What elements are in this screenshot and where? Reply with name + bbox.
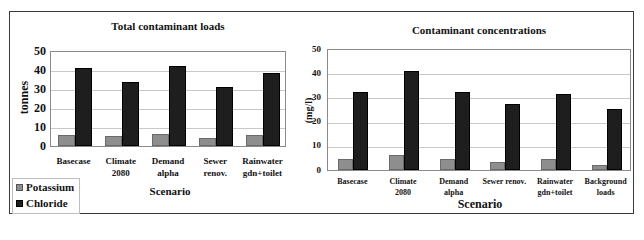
x-axis-label: Scenario — [440, 197, 520, 212]
bar-chloride — [169, 66, 186, 146]
bar-potassium — [199, 138, 216, 146]
bar-chloride — [75, 68, 92, 146]
y-tick-label: 50 — [297, 44, 321, 54]
y-tick-label: 10 — [297, 140, 321, 150]
bar-chloride — [556, 94, 571, 170]
chart-title: Contaminant concentrations — [327, 24, 631, 36]
y-tick-label: 0 — [22, 139, 46, 154]
bar-chloride — [122, 82, 139, 146]
y-tick-label: 20 — [22, 101, 46, 116]
chloride-swatch-icon — [16, 200, 23, 207]
legend-label: Potassium — [26, 181, 74, 193]
y-tick-label: 20 — [297, 116, 321, 126]
y-tick-label: 30 — [297, 92, 321, 102]
gridline — [328, 123, 630, 124]
y-tick-label: 10 — [22, 120, 46, 135]
y-tick-label: 0 — [297, 165, 321, 175]
plot-area — [327, 49, 631, 171]
bar-chloride — [505, 104, 520, 170]
legend-item-potassium: Potassium — [16, 181, 74, 193]
bar-potassium — [105, 136, 122, 146]
legend-label: Chloride — [26, 197, 68, 209]
y-tick-label: 40 — [22, 63, 46, 78]
chart-title: Total contaminant loads — [50, 20, 286, 32]
gridline — [328, 147, 630, 148]
bar-chloride — [263, 73, 280, 146]
bar-potassium — [338, 159, 353, 170]
bar-potassium — [152, 134, 169, 146]
bar-potassium — [389, 155, 404, 170]
y-tick-label: 40 — [297, 68, 321, 78]
x-tick-label: Background loads — [575, 177, 637, 199]
bar-potassium — [490, 162, 505, 170]
bar-chloride — [353, 92, 368, 170]
bar-potassium — [592, 165, 607, 170]
x-tick-label: Rainwater gdn+toilet — [232, 155, 292, 179]
potassium-swatch-icon — [16, 184, 23, 191]
legend: Potassium Chloride — [12, 178, 80, 214]
bar-potassium — [246, 135, 263, 146]
bar-chloride — [404, 71, 419, 170]
y-tick-label: 30 — [22, 82, 46, 97]
gridline — [328, 74, 630, 75]
gridline — [328, 98, 630, 99]
bar-chloride — [216, 87, 233, 146]
bar-potassium — [58, 135, 75, 146]
plot-area — [50, 51, 286, 147]
y-tick-label: 50 — [22, 44, 46, 59]
legend-item-chloride: Chloride — [16, 197, 68, 209]
bar-chloride — [607, 109, 622, 170]
bar-chloride — [455, 92, 470, 170]
bar-potassium — [440, 159, 455, 170]
bar-potassium — [541, 159, 556, 170]
x-axis-label: Scenario — [130, 185, 210, 197]
